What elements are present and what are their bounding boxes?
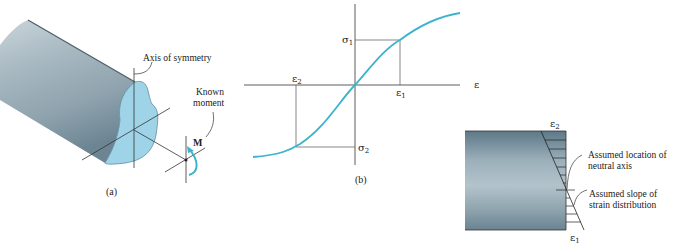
label-x-axis-eps: ε <box>474 79 479 90</box>
label-eps2: ε2 <box>292 73 302 88</box>
label-moment: moment <box>193 98 224 109</box>
caption-a: (a) <box>106 186 117 197</box>
shaft-figure <box>0 20 214 183</box>
label-neutral-axis-2: neutral axis <box>588 161 632 172</box>
label-beam-eps2: ε2 <box>550 118 560 133</box>
neutral-axis-leader <box>567 155 582 189</box>
caption-b: (b) <box>355 174 367 185</box>
label-sigma2: σ2 <box>358 142 369 157</box>
label-slope-1: Assumed slope of <box>589 189 657 200</box>
label-axis-of-symmetry: Axis of symmetry <box>143 53 212 64</box>
stress-strain-plot <box>244 4 460 165</box>
beam-figure <box>465 131 587 230</box>
label-slope-2: strain distribution <box>589 200 656 211</box>
label-neutral-axis-1: Assumed location of <box>588 150 667 161</box>
moment-leader <box>206 112 214 137</box>
label-known: Known <box>196 87 224 98</box>
moment-symbol: M <box>193 137 202 148</box>
label-sigma1: σ1 <box>342 34 353 49</box>
shaft-body <box>0 20 135 163</box>
label-beam-eps1: ε1 <box>570 232 580 247</box>
label-eps1: ε1 <box>396 87 406 102</box>
beam-body <box>465 131 566 230</box>
slope-leader <box>574 190 587 205</box>
